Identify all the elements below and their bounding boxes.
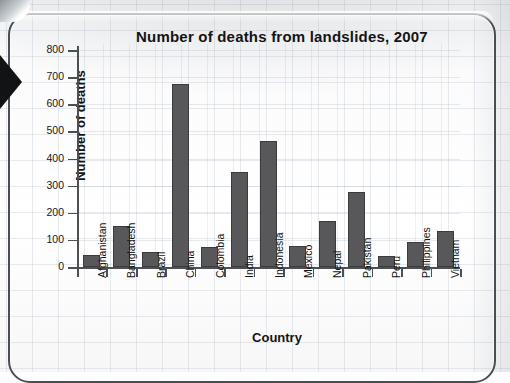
x-axis-category-label: Nepal: [331, 251, 343, 278]
gridline: [77, 131, 460, 132]
gridline-vertical: [155, 44, 156, 267]
x-axis-category-label: Vietnam: [449, 240, 461, 278]
x-axis-category-label: Philippines: [420, 227, 432, 278]
y-axis-tick-label: 200: [22, 206, 64, 218]
y-axis-tick: [68, 240, 77, 242]
x-axis-category-label: Peru: [390, 256, 402, 278]
gridline-vertical: [389, 44, 390, 267]
gridline: [77, 77, 460, 78]
y-axis-tick-label: 400: [22, 152, 64, 164]
x-axis-category-label: India: [243, 255, 255, 278]
x-axis-category-label: Pakistan: [361, 238, 373, 278]
gridline: [77, 104, 460, 105]
gridline-vertical: [337, 44, 338, 267]
x-axis-category-label: Indonesia: [273, 232, 285, 278]
x-axis-category-label: Mexico: [302, 245, 314, 278]
bar-chart: Number of deaths from landslides, 2007 N…: [22, 26, 474, 356]
gridline-vertical: [285, 44, 286, 267]
y-axis-tick: [68, 267, 77, 269]
y-axis-tick-label: 600: [22, 97, 64, 109]
y-axis-tick-label: 800: [22, 43, 64, 55]
y-axis-line: [77, 46, 79, 270]
y-axis-tick: [68, 213, 77, 215]
y-axis-tick-label: 500: [22, 124, 64, 136]
y-axis-tick: [68, 186, 77, 188]
y-axis-tick: [68, 131, 77, 133]
x-axis-category-label: Colombia: [214, 234, 226, 278]
bar: [231, 172, 248, 267]
left-triangle-pointer-icon: [0, 55, 22, 109]
bar: [172, 84, 189, 267]
gridline-vertical: [415, 44, 416, 267]
y-axis-tick-label: 300: [22, 179, 64, 191]
gridline-vertical: [207, 44, 208, 267]
y-axis-tick: [68, 159, 77, 161]
chart-title: Number of deaths from landslides, 2007: [92, 28, 472, 45]
y-axis-tick: [68, 104, 77, 106]
x-axis-category-label: Brazil: [155, 252, 167, 278]
x-axis-label: Country: [152, 330, 402, 345]
x-axis-category-label: Afghanistan: [96, 223, 108, 278]
gridline-vertical: [311, 44, 312, 267]
y-axis-tick-label: 0: [22, 260, 64, 272]
y-axis-tick-label: 100: [22, 233, 64, 245]
gridline: [77, 50, 460, 51]
y-axis-tick-label: 700: [22, 70, 64, 82]
x-axis-category-label: Bangladesh: [125, 223, 137, 278]
y-axis-tick: [68, 77, 77, 79]
x-axis-tick: [77, 269, 79, 277]
y-axis-tick: [68, 50, 77, 52]
x-axis-category-label: China: [184, 251, 196, 278]
